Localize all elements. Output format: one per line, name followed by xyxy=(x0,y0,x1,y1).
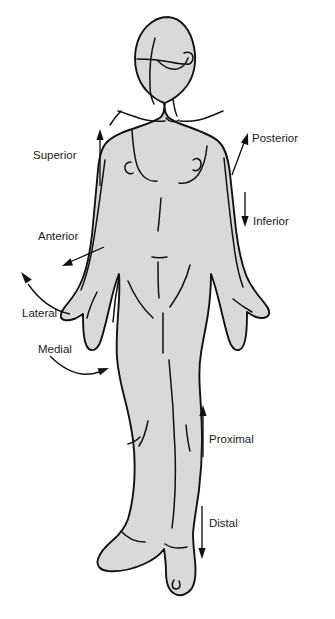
arrow-diagonal-down-left-icon-anterior-head xyxy=(62,258,73,266)
figure-canvas: Superior Posterior Inferior Anterior Lat… xyxy=(0,0,335,619)
label-group-lateral: Lateral xyxy=(21,272,70,319)
neck-sternocleidomastoid-line xyxy=(173,99,177,116)
label-lateral-text: Lateral xyxy=(22,307,57,319)
curved-arrow-right-icon-medial-shaft xyxy=(50,356,99,374)
label-posterior-text: Posterior xyxy=(252,132,298,144)
label-group-medial: Medial xyxy=(38,343,109,375)
arrow-down-icon-inferior-head xyxy=(241,216,248,227)
arrow-diagonal-up-left-icon-posterior-shaft xyxy=(232,140,245,175)
label-group-superior: Superior xyxy=(33,129,104,186)
arrow-down-icon-distal-head xyxy=(198,548,205,559)
right-clavicle-line xyxy=(180,111,223,121)
navel-line xyxy=(152,257,167,258)
body-silhouette xyxy=(61,17,269,595)
trapezius-left-line xyxy=(110,111,121,125)
label-proximal-text: Proximal xyxy=(209,433,254,445)
label-group-posterior: Posterior xyxy=(232,132,298,175)
label-anterior-text: Anterior xyxy=(38,230,78,242)
label-group-proximal: Proximal xyxy=(199,405,253,457)
label-medial-text: Medial xyxy=(38,343,72,355)
body-outline-path xyxy=(61,17,269,595)
curved-arrow-right-icon-medial-head xyxy=(98,368,110,375)
arrow-diagonal-up-left-icon-posterior-head xyxy=(241,133,248,145)
label-inferior-text: Inferior xyxy=(253,215,289,227)
curved-arrow-up-left-icon-lateral-head xyxy=(21,272,32,284)
label-group-distal: Distal xyxy=(198,506,237,559)
label-distal-text: Distal xyxy=(209,517,238,529)
anatomical-diagram-figure: Superior Posterior Inferior Anterior Lat… xyxy=(0,0,335,619)
label-group-inferior: Inferior xyxy=(241,192,289,227)
label-superior-text: Superior xyxy=(33,149,77,161)
arrow-up-icon-superior-head xyxy=(96,129,103,140)
